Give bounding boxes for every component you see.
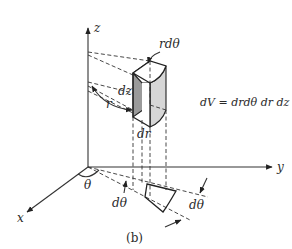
y-axis-label: y — [276, 160, 284, 174]
rdtheta-label: rdθ — [159, 37, 180, 51]
dtheta-right-label: dθ — [189, 198, 205, 212]
dtheta-right-arrow-bottom — [165, 220, 181, 227]
dr-label: dr — [137, 127, 152, 141]
theta-label: θ — [84, 178, 92, 192]
figure-caption: (b) — [126, 231, 143, 245]
z-axis-label: z — [93, 21, 101, 35]
volume-element — [133, 61, 166, 127]
dz-label: dz — [118, 84, 133, 98]
base-footprint — [88, 167, 208, 220]
dtheta-left-label: dθ — [112, 196, 128, 210]
x-axis — [27, 167, 88, 212]
front-face — [142, 83, 150, 127]
dtheta-right-arrow-top — [200, 178, 207, 193]
x-axis-label: x — [17, 211, 24, 225]
cylindrical-volume-element-diagram: z y x — [0, 0, 292, 249]
volume-equation: dV = drdθ dr dz — [200, 96, 289, 109]
